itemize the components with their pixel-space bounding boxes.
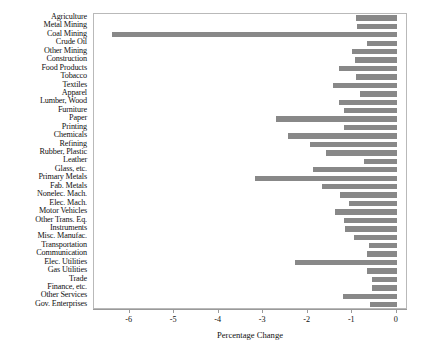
- x-axis-tick-label: 0: [384, 315, 408, 324]
- bar: [349, 201, 397, 206]
- percentage-change-bar-chart: AgricultureMetal MiningCoal MiningCrude …: [0, 0, 432, 354]
- bar: [356, 15, 397, 20]
- x-axis-tick-label: -2: [295, 315, 319, 324]
- x-axis-tick-label: -4: [206, 315, 230, 324]
- x-axis-tick-label: -5: [161, 315, 185, 324]
- bar-row: [94, 157, 406, 165]
- x-axis-tick: [173, 309, 174, 313]
- category-label: Gov. Enterprises: [0, 300, 90, 308]
- bar: [322, 184, 396, 189]
- bar-row: [94, 217, 406, 225]
- bar-row: [94, 48, 406, 56]
- bar: [343, 294, 397, 299]
- bar-row: [94, 250, 406, 258]
- x-axis-tick: [396, 309, 397, 313]
- bar-row: [94, 200, 406, 208]
- bar: [276, 116, 397, 121]
- bar-row: [94, 14, 406, 22]
- bar: [355, 57, 396, 62]
- bar-row: [94, 276, 406, 284]
- bar: [357, 24, 397, 29]
- category-axis-labels: AgricultureMetal MiningCoal MiningCrude …: [0, 13, 90, 309]
- bars-layer: [94, 14, 406, 308]
- bar: [364, 159, 397, 164]
- bar: [310, 142, 397, 147]
- bar-row: [94, 73, 406, 81]
- x-axis-line: [93, 309, 407, 310]
- bar-row: [94, 267, 406, 275]
- bar: [345, 226, 397, 231]
- x-axis-tick: [307, 309, 308, 313]
- bar: [112, 32, 397, 37]
- bar: [340, 192, 397, 197]
- bar-row: [94, 166, 406, 174]
- bar-row: [94, 208, 406, 216]
- bar: [352, 49, 397, 54]
- bar-row: [94, 82, 406, 90]
- bar: [344, 108, 397, 113]
- bar: [333, 83, 397, 88]
- bar-row: [94, 191, 406, 199]
- x-axis-tick: [129, 309, 130, 313]
- x-axis-tick-label: -3: [250, 315, 274, 324]
- bar-row: [94, 141, 406, 149]
- bar-row: [94, 39, 406, 47]
- bar: [372, 285, 397, 290]
- x-axis-title: Percentage Change: [93, 330, 407, 340]
- x-axis-tick: [351, 309, 352, 313]
- x-axis-tick-label: -1: [339, 315, 363, 324]
- bar-row: [94, 132, 406, 140]
- bar: [344, 218, 397, 223]
- bar-row: [94, 115, 406, 123]
- bar: [288, 133, 397, 138]
- bar-row: [94, 301, 406, 309]
- bar: [369, 243, 397, 248]
- bar-row: [94, 149, 406, 157]
- bar-row: [94, 242, 406, 250]
- bar-row: [94, 292, 406, 300]
- x-axis-tick: [262, 309, 263, 313]
- bar: [367, 41, 397, 46]
- bar: [344, 125, 397, 130]
- bar-row: [94, 259, 406, 267]
- bar: [339, 66, 396, 71]
- bar-row: [94, 284, 406, 292]
- bar: [313, 167, 397, 172]
- bar-row: [94, 31, 406, 39]
- bar: [335, 209, 397, 214]
- bar: [372, 277, 397, 282]
- bar: [367, 251, 397, 256]
- bar: [360, 91, 397, 96]
- bar: [354, 235, 397, 240]
- x-axis-tick: [218, 309, 219, 313]
- bar-row: [94, 90, 406, 98]
- bar: [356, 74, 397, 79]
- plot-panel: [93, 13, 407, 309]
- bar-row: [94, 233, 406, 241]
- bar: [295, 260, 397, 265]
- bar: [370, 302, 397, 307]
- x-axis-tick-label: -6: [117, 315, 141, 324]
- bar-row: [94, 107, 406, 115]
- bar-row: [94, 56, 406, 64]
- bar-row: [94, 124, 406, 132]
- bar: [326, 150, 397, 155]
- bar-row: [94, 183, 406, 191]
- bar-row: [94, 98, 406, 106]
- bar: [339, 100, 396, 105]
- bar-row: [94, 22, 406, 30]
- bar-row: [94, 174, 406, 182]
- bar: [255, 176, 397, 181]
- bar: [367, 268, 397, 273]
- bar-row: [94, 65, 406, 73]
- bar-row: [94, 225, 406, 233]
